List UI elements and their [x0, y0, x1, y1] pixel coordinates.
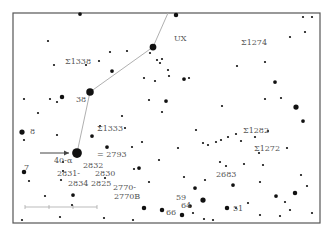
star-label: 40-α — [54, 156, 73, 165]
star — [177, 147, 179, 149]
star — [193, 186, 197, 190]
star-label: 2830 — [95, 169, 115, 178]
star — [109, 51, 111, 53]
star — [60, 95, 65, 100]
star — [105, 145, 109, 149]
star — [143, 77, 145, 79]
star — [56, 134, 58, 136]
star — [60, 179, 62, 181]
star-label: 38 — [76, 95, 86, 104]
star — [188, 77, 190, 79]
star-label: 7 — [24, 163, 29, 172]
star — [164, 99, 168, 103]
star-label: Σ1282 — [243, 126, 269, 135]
star-label: 2770- — [113, 183, 136, 192]
star — [37, 112, 39, 114]
star — [247, 202, 249, 204]
star — [121, 115, 123, 117]
star — [28, 180, 30, 182]
star-label: 2770B — [114, 192, 140, 201]
star — [90, 134, 94, 138]
star — [174, 13, 179, 18]
star — [103, 217, 105, 219]
star-label: 51 — [233, 204, 243, 213]
star-label: 8 — [30, 127, 35, 136]
star-chart: Σ1338UXΣ1274388Σ1333= 279340-α728322831-… — [0, 0, 336, 233]
star-label: UX — [174, 34, 187, 43]
star — [202, 142, 204, 144]
star — [148, 99, 150, 101]
star — [142, 206, 147, 211]
star — [124, 127, 126, 129]
star — [156, 59, 158, 61]
star — [300, 174, 302, 176]
star — [160, 208, 165, 213]
star — [53, 64, 55, 66]
star — [284, 201, 286, 203]
star — [264, 61, 266, 63]
star — [56, 101, 58, 103]
star — [207, 144, 209, 146]
star — [49, 98, 51, 100]
star — [19, 129, 24, 134]
star — [279, 215, 281, 217]
star — [204, 179, 206, 181]
star — [141, 141, 143, 143]
star — [167, 69, 169, 71]
star — [240, 140, 242, 142]
star — [301, 119, 305, 123]
star-label: 2834 — [68, 179, 88, 188]
star — [44, 195, 46, 197]
star-label: Σ1338 — [65, 57, 91, 66]
star — [227, 136, 229, 138]
star — [304, 31, 306, 33]
star-label: 66 — [166, 208, 176, 217]
star — [71, 204, 73, 206]
star — [154, 80, 156, 82]
star — [225, 206, 230, 211]
star — [183, 176, 185, 178]
star — [221, 105, 223, 107]
star — [215, 141, 217, 143]
star — [289, 36, 291, 38]
star — [289, 209, 291, 211]
star — [159, 62, 161, 64]
star — [311, 212, 313, 214]
star — [302, 16, 304, 18]
star — [311, 16, 313, 18]
star — [150, 44, 157, 51]
star — [161, 58, 163, 60]
star — [131, 146, 133, 148]
star — [259, 214, 261, 216]
star — [192, 212, 194, 214]
star-label: Σ1272 — [254, 144, 280, 153]
star — [98, 60, 100, 62]
star — [273, 80, 277, 84]
star — [132, 219, 134, 221]
star — [254, 136, 256, 138]
chart-frame — [13, 13, 320, 223]
star-label: 2825 — [91, 179, 111, 188]
star — [59, 216, 61, 218]
star — [23, 98, 25, 100]
star — [47, 40, 49, 42]
star — [219, 161, 221, 163]
star — [200, 197, 205, 202]
star — [212, 219, 214, 221]
star — [306, 185, 308, 187]
star — [264, 98, 266, 100]
star — [72, 148, 82, 158]
star — [180, 213, 185, 218]
star — [21, 219, 23, 221]
star — [231, 183, 235, 187]
star — [220, 139, 222, 141]
star — [286, 147, 288, 149]
star — [293, 104, 298, 109]
star — [243, 163, 245, 165]
star — [203, 218, 205, 220]
star — [182, 77, 186, 81]
star — [158, 159, 160, 161]
star — [126, 50, 128, 52]
star-label: 2683 — [216, 170, 236, 179]
star — [71, 193, 75, 197]
